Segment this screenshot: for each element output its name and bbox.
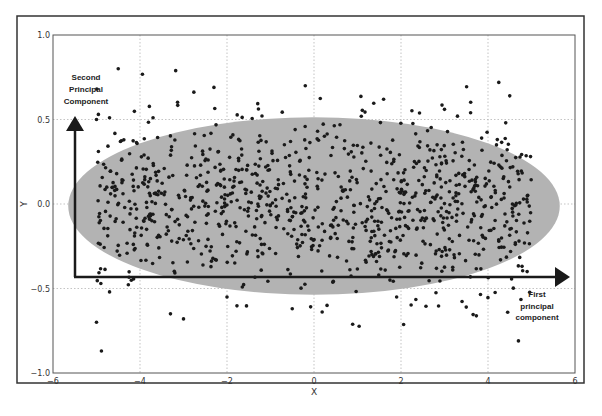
data-point [333,171,337,175]
data-point [98,212,102,216]
data-point [500,141,504,145]
data-point [132,248,136,252]
data-point [385,208,389,212]
data-point [229,135,233,139]
data-point [440,255,444,259]
data-point [469,220,473,224]
data-point [169,134,173,138]
data-point [102,227,106,231]
data-point [304,147,308,151]
data-point [170,239,174,243]
data-point [113,185,117,189]
data-point [263,221,267,225]
data-point [378,255,382,259]
data-point [260,189,264,193]
data-point [396,171,400,175]
data-point [223,197,227,201]
data-point [411,122,415,126]
data-point [523,241,527,245]
data-point [438,155,442,159]
data-point [271,159,275,163]
data-point [197,239,201,243]
data-point [296,238,300,242]
data-point [453,256,457,260]
data-point [95,321,99,325]
data-point [458,252,462,256]
data-point [177,194,181,198]
data-point [311,216,315,220]
data-point [245,188,249,192]
data-point [208,147,212,151]
data-point [517,264,521,268]
data-point [441,221,445,225]
data-point [268,209,272,213]
data-point [510,207,514,211]
data-point [448,179,452,183]
data-point [487,179,491,183]
data-point [205,222,209,226]
data-point [379,197,383,201]
data-point [175,241,179,245]
data-point [435,267,439,271]
data-point [438,279,442,283]
data-point [432,181,436,185]
data-point [305,186,309,190]
data-point [347,240,351,244]
data-point [392,178,396,182]
data-point [247,206,251,210]
data-point [337,175,341,179]
data-point [213,166,217,170]
data-point [329,235,333,239]
data-point [131,139,135,143]
data-point [442,216,446,220]
data-point [238,181,242,185]
data-point [315,171,319,175]
data-point [448,203,452,207]
data-point [157,170,161,174]
data-point [251,233,255,237]
data-point [334,216,338,220]
data-point [463,185,467,189]
data-point [325,132,329,136]
data-point [318,97,322,101]
data-point [228,178,232,182]
data-point [401,234,405,238]
data-point [255,181,259,185]
data-point [312,238,316,242]
data-point [325,304,329,308]
data-point [385,161,389,165]
x-tick-label: 6 [572,377,577,386]
data-point [443,154,447,158]
data-point [253,162,257,166]
data-point [339,196,343,200]
data-point [364,159,368,163]
data-point [520,171,524,175]
data-point [475,314,479,318]
data-point [506,310,510,314]
data-point [245,168,249,172]
data-point [103,268,107,272]
data-point [451,159,455,163]
data-point [356,144,360,148]
data-point [320,310,324,314]
data-point [388,278,392,282]
data-point [108,116,112,120]
data-point [477,253,481,257]
data-point [479,293,483,297]
data-point [335,237,339,241]
data-point [293,128,297,132]
data-point [150,219,154,223]
data-point [133,234,137,238]
data-point [274,226,278,230]
data-point [229,200,233,204]
data-point [298,173,302,177]
data-point [135,142,139,146]
data-point [142,182,146,186]
data-point [380,246,384,250]
data-point [218,162,222,166]
data-point [366,205,370,209]
data-point [128,228,132,232]
data-point [499,258,503,262]
data-point [395,295,399,299]
data-point [219,184,223,188]
